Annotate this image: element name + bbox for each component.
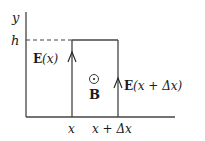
magnetic-field-label: B (89, 87, 100, 102)
left-field-symbol: E (33, 52, 42, 66)
out-of-page-dot-icon (93, 78, 95, 80)
h-label: h (11, 33, 19, 48)
left-field-arg: (x) (42, 52, 58, 66)
faraday-loop-diagram: y h E (x) E (x + Δx) B x x + Δx (0, 0, 205, 141)
right-field-arg: (x + Δx) (133, 79, 183, 93)
y-axis-label: y (11, 10, 20, 25)
x-tick-right: x + Δx (92, 122, 132, 136)
right-field-symbol: E (124, 79, 133, 93)
x-tick-left: x (68, 122, 75, 136)
